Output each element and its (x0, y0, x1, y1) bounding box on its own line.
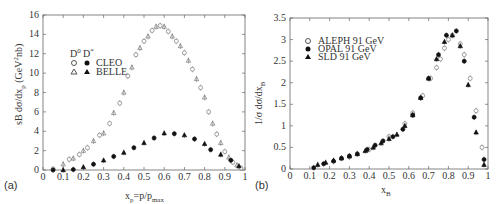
filled-triangle-icon (84, 69, 90, 74)
x-tick-label: 0.2 (77, 171, 90, 182)
filled-triangle-icon (305, 54, 311, 59)
open-circle-icon (306, 39, 311, 44)
y-tick-label: 12 (29, 48, 39, 59)
x-tick-label: 0.7 (422, 170, 435, 181)
figure: 00.10.20.30.40.50.60.70.80.9102468101214… (0, 0, 500, 204)
x-tick-label: 0 (288, 170, 293, 181)
y-tick-label: 2 (281, 77, 286, 88)
y-tick-label: 16 (29, 9, 39, 20)
x-tick-label: 0.3 (97, 171, 110, 182)
y-tick-label: 1.5 (274, 98, 287, 109)
panel-label-b: (b) (255, 179, 268, 191)
open-triangle-icon (71, 69, 77, 74)
y-tick-label: 0 (281, 163, 286, 174)
x-tick-label: 0 (41, 171, 46, 182)
x-tick-label: 1 (486, 170, 491, 181)
panel-label-a: (a) (4, 179, 17, 191)
legend-header-d0: D0 (70, 47, 81, 59)
y-tick-label: 3.5 (274, 12, 287, 23)
x-tick-label: 0.9 (219, 171, 232, 182)
y-tick-label: 2.5 (274, 55, 287, 66)
filled-circle-icon (85, 61, 90, 66)
x-tick-label: 0.6 (403, 170, 416, 181)
y-tick-label: 1 (281, 120, 286, 131)
legend-label-sld: SLD 91 GeV (318, 51, 372, 62)
x-tick-label: 0.3 (343, 170, 356, 181)
y-tick-label: 3 (281, 34, 286, 45)
chart-canvas: 00.10.20.30.40.50.60.70.80.9102468101214… (0, 0, 500, 204)
x-tick-label: 0.8 (442, 170, 455, 181)
x-tick-label: 0.7 (178, 171, 191, 182)
y-tick-label: 10 (29, 67, 39, 78)
x-tick-label: 0.8 (198, 171, 211, 182)
y-tick-label: 2 (34, 145, 39, 156)
y-tick-label: 4 (34, 125, 39, 136)
x-axis-label-b: xB (381, 184, 391, 198)
y-tick-label: 8 (34, 87, 39, 98)
x-tick-label: 0.9 (462, 170, 475, 181)
y-tick-label: 6 (34, 106, 39, 117)
y-tick-label: 14 (29, 28, 39, 39)
y-axis-label-a: sB dσ/dxp (GeV2nb) (12, 44, 27, 125)
x-tick-label: 0.2 (323, 170, 336, 181)
x-tick-label: 0.5 (138, 171, 151, 182)
filled-circle-icon (306, 47, 311, 52)
open-circle-icon (72, 61, 77, 66)
x-tick-label: 0.4 (363, 170, 376, 181)
y-tick-label: 0 (34, 164, 39, 175)
x-tick-label: 1 (243, 171, 248, 182)
x-tick-label: 0.1 (304, 170, 317, 181)
x-tick-label: 0.4 (118, 171, 131, 182)
panel-b: 00.10.20.30.40.50.60.70.80.9100.511.522.… (253, 12, 491, 198)
x-axis-label-a: xp=p/pmax (125, 190, 164, 204)
legend-label-belle: BELLE (96, 66, 127, 77)
y-axis-label-b: 1/σ dσ/dxB (253, 81, 267, 125)
panel-a: 00.10.20.30.40.50.60.70.80.9102468101214… (4, 9, 248, 204)
data-points-a (51, 23, 243, 173)
x-tick-label: 0.5 (383, 170, 396, 181)
y-tick-label: 0.5 (274, 141, 287, 152)
legend-header-dstar: D* (83, 47, 94, 59)
x-tick-label: 0.6 (158, 171, 171, 182)
axis-ticks-a: 00.10.20.30.40.50.60.70.80.9102468101214… (29, 9, 248, 182)
